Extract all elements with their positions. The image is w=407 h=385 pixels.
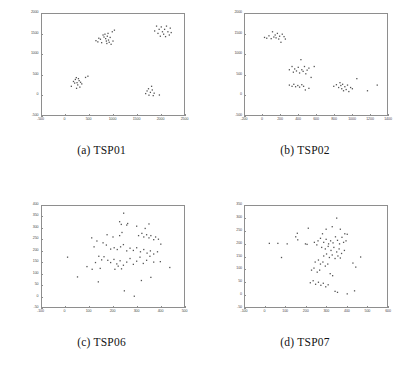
data-point [106,36,107,37]
y-tick-label: 150 [216,255,242,259]
y-tick-mark [244,244,246,245]
y-tick-mark [41,54,43,55]
scatter-svg-tsp02 [245,14,387,115]
data-point [143,236,144,237]
data-point [75,88,76,89]
caption-name-tsp02: TSP02 [297,144,329,156]
data-point [95,40,96,41]
data-point [338,248,339,249]
data-point [287,243,288,244]
data-point [158,29,159,30]
data-point [109,262,110,263]
data-point [98,256,99,257]
data-point [99,268,100,269]
data-point [120,268,121,269]
data-point [341,253,342,254]
data-point [325,248,326,249]
data-point [74,82,75,83]
data-point [150,235,151,236]
data-point [325,265,326,266]
data-point [118,235,119,236]
y-tick-label: 200 [216,242,242,246]
y-tick-mark [41,228,43,229]
x-tick-label: 1400 [384,118,392,122]
data-point [140,280,141,281]
panel-caption-tsp02: (b)TSP02 [280,144,329,156]
data-point [344,233,345,234]
data-point [334,258,335,259]
data-point [79,86,80,87]
data-point [149,256,150,257]
x-tick-label: -100 [241,310,248,314]
data-point [301,84,302,85]
data-point [280,42,281,43]
data-point [122,244,123,245]
y-tick-label: 350 [216,203,242,207]
x-tick-mark [370,114,371,116]
x-tick-mark [41,114,42,116]
panel-caption-tsp01: (a)TSP01 [77,144,126,156]
x-tick-mark [326,306,327,308]
data-point [149,92,150,93]
data-point [281,257,282,258]
x-tick-label: 0 [64,118,66,122]
data-point [308,67,309,68]
data-point [103,36,104,37]
data-point [103,256,104,257]
y-tick-label: 200 [13,249,39,253]
x-tick-mark [298,114,299,116]
data-point [285,38,286,39]
plot-frame-tsp07 [244,205,388,308]
data-point [76,276,77,277]
data-point [70,86,71,87]
x-tick-mark [265,306,266,308]
data-point [293,72,294,73]
data-point [306,69,307,70]
data-point [302,71,303,72]
data-point [323,255,324,256]
data-point [74,79,75,80]
x-tick-label: 0 [264,310,266,314]
x-tick-label: 400 [295,118,301,122]
x-tick-label: 500 [86,118,92,122]
y-tick-mark [244,231,246,232]
y-tick-mark [244,269,246,270]
data-point [279,36,280,37]
data-point [308,88,309,89]
data-point [320,285,321,286]
data-point [145,93,146,94]
y-tick-label: -50 [216,306,242,310]
data-point [377,84,378,85]
data-point [97,281,98,282]
y-tick-label: 1500 [216,32,242,36]
y-tick-label: 350 [13,215,39,219]
data-point [129,258,130,259]
x-tick-mark [137,114,138,116]
data-point [163,34,164,35]
data-point [347,293,348,294]
data-point [105,38,106,39]
x-tick-mark [244,306,245,308]
y-tick-mark [244,257,246,258]
y-tick-mark [41,216,43,217]
data-point [332,226,333,227]
data-point [155,25,156,26]
data-point [264,37,265,38]
data-point [339,243,340,244]
data-point [344,250,345,251]
data-point [122,265,123,266]
data-point [343,90,344,91]
data-point [317,240,318,241]
panel-tsp07: -50050100150200250300350-100010020030040… [203,192,407,385]
data-point [123,290,124,291]
data-point [160,243,161,244]
data-point [315,284,316,285]
data-point [295,236,296,237]
data-point [132,250,133,251]
x-tick-mark [89,306,90,308]
data-point [326,253,327,254]
x-tick-label: 100 [86,310,92,314]
data-point [111,31,112,32]
data-point [311,269,312,270]
data-point [133,296,134,297]
